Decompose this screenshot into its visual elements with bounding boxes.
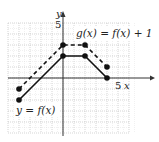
f-point <box>60 53 66 59</box>
graph: y 5 5 x g(x) = f(x) + 1 y = f(x) <box>0 0 159 142</box>
y-axis-label: y <box>55 8 62 19</box>
f-point <box>104 75 110 81</box>
y-tick-5: 5 <box>55 19 61 30</box>
g-point <box>82 42 88 48</box>
f-point <box>82 53 88 59</box>
f-point <box>16 97 22 103</box>
g-point <box>16 86 22 92</box>
x-tick-5: 5 <box>115 80 121 91</box>
f-function-label: y = f(x) <box>15 104 55 116</box>
g-point <box>104 64 110 70</box>
g-point <box>60 42 66 48</box>
g-function-label: g(x) = f(x) + 1 <box>76 27 152 39</box>
x-axis-label: x <box>124 80 130 91</box>
x-axis-arrow-icon <box>150 76 155 81</box>
